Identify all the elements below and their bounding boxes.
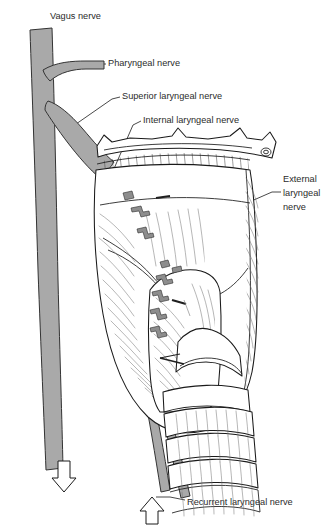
label-pharyngeal-nerve: Pharyngeal nerve — [108, 58, 180, 68]
label-external-laryngeal-nerve-line3: nerve — [283, 202, 306, 212]
label-superior-laryngeal-nerve: Superior laryngeal nerve — [122, 91, 222, 101]
label-internal-laryngeal-nerve: Internal laryngeal nerve — [143, 115, 239, 125]
label-external-laryngeal-nerve-line1: External — [283, 174, 317, 184]
label-vagus-nerve: Vagus nerve — [50, 11, 101, 21]
laryngeal-nerves-diagram: Vagus nerve Pharyngeal nerve Superior la… — [0, 0, 333, 530]
anatomical-figure: Vagus nerve Pharyngeal nerve Superior la… — [0, 0, 333, 530]
label-external-laryngeal-nerve-line2: laryngeal — [283, 188, 320, 198]
vagus-nerve-trunk — [30, 28, 63, 470]
hyoid-bone — [97, 128, 276, 158]
up-arrow-icon — [140, 497, 164, 524]
thyrohyoid-membrane-upper-edge — [97, 155, 250, 164]
